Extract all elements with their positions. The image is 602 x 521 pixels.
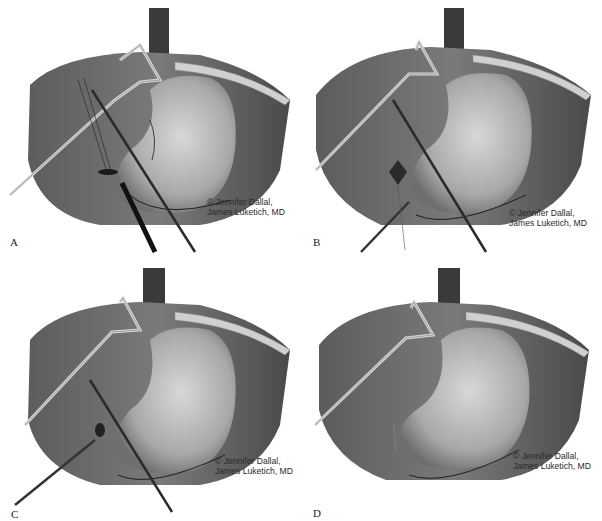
esophagus-tube: [149, 8, 169, 58]
esophagus-tube: [143, 268, 165, 308]
credit-line-2: James Luketich, MD: [509, 218, 587, 228]
panel-label: D: [313, 507, 321, 519]
suture-site: [95, 423, 105, 437]
credit-line-1: © Jennifer Dallal,: [207, 197, 285, 207]
credit-line-2: James Luketich, MD: [215, 466, 293, 476]
copyright-credit: © Jennifer Dallal, James Luketich, MD: [509, 208, 587, 228]
panel-d: © Jennifer Dallal, James Luketich, MD D: [301, 260, 602, 520]
esophagus-tube: [444, 8, 464, 53]
credit-line-1: © Jennifer Dallal,: [509, 208, 587, 218]
surgical-illustration-d: [301, 260, 602, 521]
panel-label: B: [313, 236, 320, 248]
panel-b: © Jennifer Dallal, James Luketich, MD B: [301, 0, 602, 260]
panel-label: A: [10, 236, 18, 248]
surgical-illustration-a: [0, 0, 301, 260]
credit-line-1: © Jennifer Dallal,: [513, 451, 591, 461]
suture-knot: [98, 169, 118, 175]
copyright-credit: © Jennifer Dallal, James Luketich, MD: [215, 456, 293, 476]
panel-c: © Jennifer Dallal, James Luketich, MD C: [0, 260, 301, 520]
panel-label: C: [11, 508, 18, 520]
credit-line-2: James Luketich, MD: [207, 207, 285, 217]
copyright-credit: © Jennifer Dallal, James Luketich, MD: [513, 451, 591, 471]
surgical-illustration-c: [0, 260, 301, 521]
esophagus-tube: [438, 268, 460, 308]
copyright-credit: © Jennifer Dallal, James Luketich, MD: [207, 197, 285, 217]
credit-line-2: James Luketich, MD: [513, 461, 591, 471]
credit-line-1: © Jennifer Dallal,: [215, 456, 293, 466]
panel-a: © Jennifer Dallal, James Luketich, MD A: [0, 0, 301, 260]
